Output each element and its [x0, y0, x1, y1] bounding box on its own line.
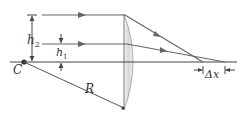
label-delta-x: Δx: [204, 68, 220, 81]
label-h2: h2: [27, 33, 40, 49]
arrow-icon: [78, 41, 86, 47]
ray-h2-refracted: [125, 15, 203, 62]
label-radius: R: [84, 82, 94, 96]
lens-diagram: h2 h1 C R Δx: [0, 0, 247, 123]
arrow-icon: [78, 12, 86, 18]
radius-line: [24, 62, 124, 108]
label-center: C: [13, 63, 22, 77]
ray-h1-refracted: [127, 44, 225, 62]
arrow-up-icon: [30, 16, 35, 21]
arrow-down-icon: [30, 56, 35, 61]
arrow-up-icon: [59, 63, 64, 68]
arrow-down-icon: [59, 38, 64, 43]
arrow-icon: [160, 47, 167, 53]
arrow-left-icon: [225, 68, 230, 72]
label-h1: h1: [56, 46, 68, 61]
arrow-right-icon: [198, 68, 203, 72]
radius-end-point: [121, 106, 124, 109]
